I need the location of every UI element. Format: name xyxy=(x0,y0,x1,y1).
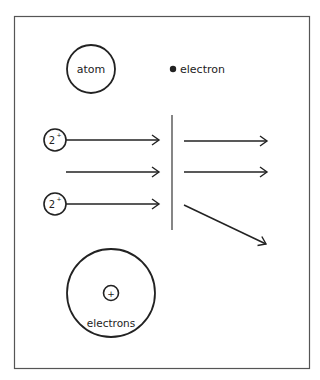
particle-charge-sign: + xyxy=(56,195,61,202)
particle-charge-sign: + xyxy=(56,131,61,138)
diagram-frame xyxy=(15,17,310,369)
alpha-particle-2: 2 + xyxy=(44,193,159,215)
electron-label: electron xyxy=(180,63,225,76)
electron-dot-icon xyxy=(170,66,176,72)
deflected-arrow xyxy=(184,205,266,244)
atom-model: + electrons xyxy=(67,249,155,337)
particle-charge: 2 xyxy=(49,135,55,146)
atom-legend: atom xyxy=(67,45,115,93)
particle-charge: 2 xyxy=(49,199,55,210)
nucleus-symbol: + xyxy=(107,289,115,299)
atom-label: atom xyxy=(77,63,106,76)
diagram-canvas: atom electron 2 + 2 + + electrons xyxy=(0,0,320,380)
electron-legend: electron xyxy=(170,63,225,76)
alpha-particle-1: 2 + xyxy=(44,129,159,151)
electrons-label: electrons xyxy=(87,317,135,329)
